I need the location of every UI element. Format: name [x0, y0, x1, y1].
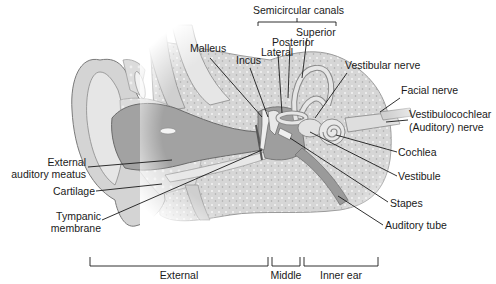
label-lateral: Lateral — [261, 46, 293, 58]
label-vestibulocochlear-line1: Vestibulocochlear — [409, 108, 491, 120]
label-external-auditory-meatus-line1: External — [0, 156, 86, 168]
region-label-external: External — [90, 269, 268, 281]
label-auditory-tube: Auditory tube — [385, 219, 447, 231]
region-label-inner: Inner ear — [304, 269, 378, 281]
label-tympanic-membrane-line1: Tympanic — [0, 210, 101, 222]
label-incus: Incus — [236, 54, 261, 66]
label-facial-nerve: Facial nerve — [401, 84, 458, 96]
label-external-auditory-meatus-line2: auditory meatus — [0, 168, 86, 180]
ear-illustration — [0, 0, 496, 284]
ear-anatomy-diagram: Semicircular canals Superior Posterior L… — [0, 0, 496, 284]
label-vestibulocochlear-line2: (Auditory) nerve — [409, 121, 484, 133]
region-label-middle: Middle — [266, 269, 306, 281]
label-cartilage: Cartilage — [0, 185, 95, 197]
label-tympanic-membrane-line2: membrane — [0, 222, 101, 234]
label-cochlea: Cochlea — [398, 146, 437, 158]
label-semicircular-canals: Semicircular canals — [253, 4, 344, 16]
label-vestibule: Vestibule — [398, 170, 441, 182]
label-malleus: Malleus — [190, 42, 226, 54]
label-vestibular-nerve: Vestibular nerve — [345, 59, 420, 71]
label-stapes: Stapes — [390, 197, 423, 209]
